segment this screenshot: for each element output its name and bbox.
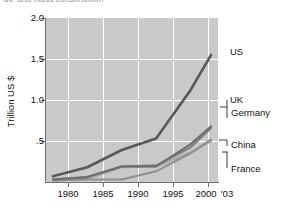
series-label-france: France (231, 164, 261, 174)
series-label-germany: Germany (231, 108, 270, 118)
leader-uk (220, 100, 227, 107)
chart-root: ay, and mass consumption 2.0 1.5 1.0 .5 … (0, 0, 283, 212)
series-lines (53, 55, 211, 180)
series-line-us (53, 55, 211, 176)
series-label-china: China (231, 140, 256, 150)
leader-china (219, 140, 227, 146)
series-label-uk: UK (230, 95, 243, 105)
series-label-us: US (230, 47, 243, 57)
series-overlay (0, 0, 283, 212)
label-leader-lines (219, 100, 228, 168)
